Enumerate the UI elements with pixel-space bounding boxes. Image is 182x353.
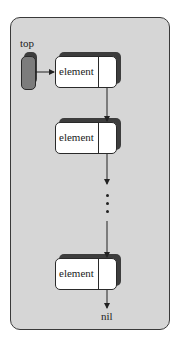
- ellipsis-dot: [106, 210, 109, 213]
- nil-label: nil: [101, 310, 113, 322]
- connector-arrows: [0, 0, 182, 353]
- ellipsis-dot: [106, 202, 109, 205]
- ellipsis-dot: [106, 194, 109, 197]
